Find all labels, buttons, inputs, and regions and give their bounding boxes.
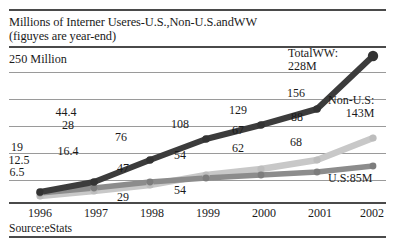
- series-label-non-us: Non-U.S: 143M: [328, 94, 374, 120]
- datalabel-non-us-1997: 16.4: [58, 144, 79, 159]
- datalabel-non-us-1999: 54: [174, 183, 186, 198]
- datalabel-non-us-2001: 88: [291, 110, 303, 125]
- xtick-2002: 2002: [360, 206, 384, 221]
- datalabel-total-ww-2000: 129: [229, 103, 247, 118]
- xtick-1999: 1999: [196, 206, 220, 221]
- internet-users-line-chart: Millions of Interner Useres-U.S.,Non-U.S…: [0, 0, 395, 242]
- datalabel-total-ww-2001: 156: [287, 86, 305, 101]
- datalabel-us-1997: 28: [62, 118, 74, 133]
- series-label-non-us-value: 143M: [328, 107, 374, 120]
- series-label-total-ww: TotalWW: 228M: [288, 47, 338, 73]
- bottom-rule: [9, 236, 386, 238]
- xtick-2001: 2001: [308, 206, 332, 221]
- datalabel-us-2000: 62: [232, 141, 244, 156]
- xtick-1998: 1998: [140, 206, 164, 221]
- datalabel-total-ww-1999: 108: [171, 117, 189, 132]
- series-label-us-name: U.S:85M: [328, 172, 372, 185]
- xtick-1997: 1997: [84, 206, 108, 221]
- datalabel-non-us-1996: 6.5: [10, 165, 25, 180]
- datalabel-non-us-1998: 29: [117, 190, 129, 205]
- datalabel-us-1998: 47: [117, 161, 129, 176]
- xtick-2000: 2000: [252, 206, 276, 221]
- datalabel-non-us-2000: 67: [232, 123, 244, 138]
- series-label-us: U.S:85M: [328, 172, 372, 185]
- datalabel-us-2001: 68: [290, 135, 302, 150]
- xtick-1996: 1996: [28, 206, 52, 221]
- chart-source-note: Source:eStats: [9, 222, 72, 235]
- datalabel-us-1999: 54: [174, 148, 186, 163]
- series-label-total-ww-value: 228M: [288, 60, 338, 73]
- datalabel-total-ww-1998: 76: [115, 130, 127, 145]
